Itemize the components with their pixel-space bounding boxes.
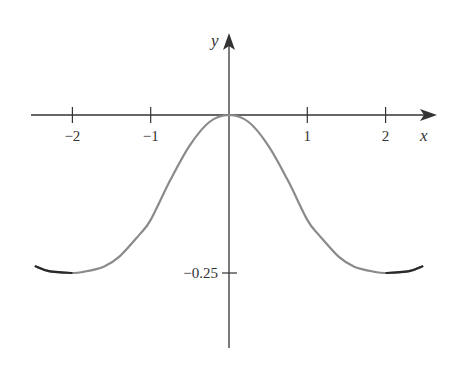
x-tick-label: −1 [143,128,159,144]
x-tick-label: 2 [382,128,390,144]
curve-right-segment [386,266,424,273]
x-tick-label: −2 [64,128,80,144]
y-axis: −0.25 y [183,31,237,348]
y-tick-label: −0.25 [183,265,218,281]
x-axis: −2−112 x [31,107,437,145]
y-axis-label: y [209,31,219,50]
curve-left-segment [35,266,73,273]
x-axis-label: x [419,126,428,145]
x-tick-label: 1 [304,128,312,144]
function-plot: −2−112 x −0.25 y [0,0,465,368]
